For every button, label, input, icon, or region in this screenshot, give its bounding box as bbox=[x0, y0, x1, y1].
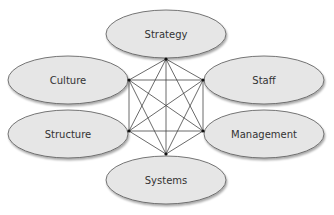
node-staff: Staff bbox=[204, 56, 324, 104]
network-diagram: StrategyCultureStaffStructureManagementS… bbox=[0, 0, 334, 215]
node-label: Staff bbox=[252, 75, 276, 86]
anchor-dot bbox=[127, 129, 130, 132]
node-structure: Structure bbox=[8, 110, 128, 158]
anchor-dot bbox=[201, 78, 204, 81]
node-culture: Culture bbox=[8, 56, 128, 104]
anchor-dot bbox=[201, 129, 204, 132]
node-management: Management bbox=[204, 110, 324, 158]
node-label: Systems bbox=[145, 175, 188, 186]
node-strategy: Strategy bbox=[106, 10, 226, 58]
anchor-dot bbox=[164, 152, 167, 155]
node-systems: Systems bbox=[106, 156, 226, 204]
node-label: Management bbox=[231, 129, 297, 140]
node-label: Strategy bbox=[145, 29, 188, 40]
connection-lines bbox=[129, 59, 203, 154]
node-label: Structure bbox=[45, 129, 92, 140]
anchor-dot bbox=[164, 57, 167, 60]
node-label: Culture bbox=[50, 75, 86, 86]
anchor-dot bbox=[127, 78, 130, 81]
